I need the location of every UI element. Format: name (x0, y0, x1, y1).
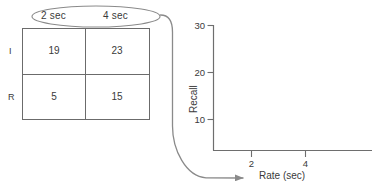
table-cell-r-2sec: 5 (42, 92, 66, 102)
table-row-header-r: R (8, 93, 15, 102)
chart-axes (208, 25, 372, 157)
table-cell-i-4sec: 23 (105, 46, 129, 56)
annotation-arrow (161, 15, 244, 178)
table-column-header-1: 2 sec (41, 11, 66, 21)
x-axis-label: Rate (sec) (259, 171, 305, 181)
y-tick-label-30: 30 (175, 21, 205, 31)
table-row-header-i: I (9, 47, 12, 56)
x-tick-label-4: 4 (295, 159, 316, 169)
y-tick-label-20: 20 (175, 68, 205, 78)
x-tick-label-2: 2 (241, 159, 262, 169)
y-axis-label: Recall (189, 85, 199, 113)
table-cell-r-4sec: 15 (105, 92, 129, 102)
diagram-canvas: 2 sec 4 sec I R 19 23 5 15 30 20 10 2 4 … (0, 0, 372, 192)
table-column-header-2: 4 sec (103, 11, 128, 21)
table-grid (23, 29, 150, 120)
y-tick-label-10: 10 (175, 115, 205, 125)
table-cell-i-2sec: 19 (42, 46, 66, 56)
